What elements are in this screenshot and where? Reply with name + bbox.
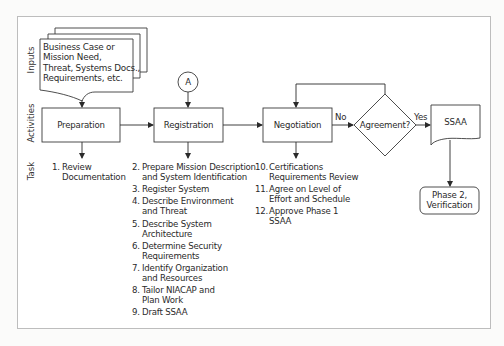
task-item: 10.CertificationsRequirements Review [255,162,358,182]
lane-label-inputs: Inputs [26,30,36,90]
task-item: 12.Approve Phase 1SSAA [255,206,358,226]
task-item: 7.Identify Organizationand Resources [132,263,256,283]
task-item: 1.ReviewDocumentation [52,162,126,182]
task-list-registration: 2.Prepare Mission Descriptionand System … [132,162,256,320]
negotiation-label: Negotiation [263,120,332,130]
task-item: 9.Draft SSAA [132,307,256,317]
agreement-label: Agreement? [354,120,416,130]
task-item: 6.Determine SecurityRequirements [132,241,256,261]
task-item: 8.Tailor NIACAP andPlan Work [132,285,256,305]
registration-label: Registration [154,120,223,130]
task-item: 3.Register System [132,184,256,194]
task-item: 4.Describe Environmentand Threat [132,196,256,216]
task-list-negotiation: 10.CertificationsRequirements Review 11.… [255,162,358,229]
lane-label-task: Task [26,141,36,201]
ssaa-label: SSAA [431,117,480,127]
task-item: 5.Describe SystemArchitecture [132,219,256,239]
task-list-preparation: 1.ReviewDocumentation [52,162,126,184]
task-item: 11.Agree on Level ofEffort and Schedule [255,184,358,204]
input-document-text: Business Case or Mission Need, Threat, S… [43,42,140,83]
phase2-label: Phase 2, Verification [420,190,479,210]
connector-a-label: A [178,77,198,87]
yes-label: Yes [414,112,427,122]
preparation-label: Preparation [42,120,120,130]
no-label: No [335,112,346,122]
task-item: 2.Prepare Mission Descriptionand System … [132,162,256,182]
